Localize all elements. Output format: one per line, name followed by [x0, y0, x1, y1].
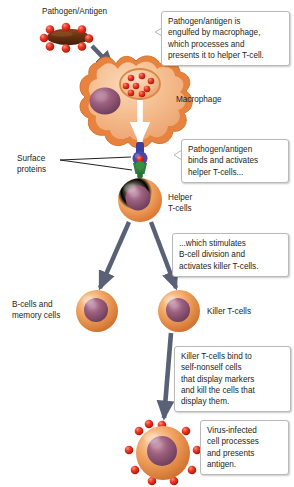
label-pathogen-antigen: Pathogen/Antigen [42, 6, 107, 17]
arrow-killer-to-infected [164, 333, 171, 418]
t-cell-receptor [133, 161, 147, 178]
helper-t-cell [118, 178, 162, 222]
callout-stimulates-division: ...which stimulates B-cell division and … [172, 233, 289, 277]
callout-virus-infected: Virus-infected cell processes and presen… [200, 420, 289, 475]
callout-killer-binds: Killer T-cells bind to self-nonself cell… [174, 346, 291, 412]
label-helper-t-cells: Helper T-cells [168, 192, 192, 214]
surface-proteins-leader-lines [60, 157, 132, 170]
label-killer-t-cells: Killer T-cells [207, 306, 251, 317]
label-surface-proteins: Surface proteins [17, 153, 46, 175]
killer-t-cell [158, 290, 200, 332]
pathogen-rod [40, 23, 94, 53]
label-b-cells-memory-cells: B-cells and memory cells [12, 299, 60, 321]
arrow-helper-to-bcell [100, 222, 129, 288]
callout-binds-activates: Pathogen/antigen binds and activates hel… [181, 139, 289, 183]
callout-engulf: Pathogen/antigen is engulfed by macropha… [161, 11, 290, 66]
b-cell [76, 290, 118, 332]
diagram-canvas: Pathogen/Antigen Macrophage Surface prot… [0, 0, 294, 487]
label-macrophage: Macrophage [176, 94, 222, 105]
macrophage-vesicle [120, 69, 160, 99]
virus-infected-cell [125, 420, 202, 486]
macrophage-nucleus [90, 88, 121, 115]
